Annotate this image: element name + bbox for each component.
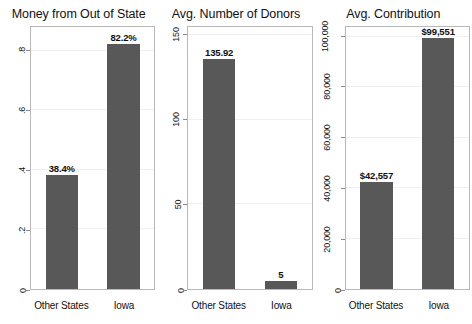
bar (422, 38, 454, 289)
axis-area: .8.6.4.2038.4%82.2% (0, 26, 155, 290)
axis-area: 150100500135.925 (157, 26, 312, 290)
bar-series: 135.925 (188, 27, 311, 289)
bar-value-label: 82.2% (89, 32, 157, 43)
plot-area: $42,557$99,551 (345, 26, 470, 290)
x-axis-category-label: Other States (30, 300, 93, 312)
bar-slot: 5 (265, 27, 297, 289)
bar-series: 38.4%82.2% (31, 27, 154, 289)
bar (360, 182, 392, 289)
bar-series: $42,557$99,551 (346, 27, 469, 289)
y-axis-tick-label: 50 (174, 200, 183, 210)
bar (203, 59, 235, 289)
bar-slot: $42,557 (360, 27, 392, 289)
x-axis-category-label: Iowa (407, 300, 470, 312)
panel-title: Money from Out of State (0, 7, 157, 22)
bar (265, 281, 297, 289)
y-axis-tick-label: 100,000 (321, 21, 330, 52)
x-axis-category-label: Iowa (93, 300, 156, 312)
chart-panel: Avg. Number of Donors150100500135.925Oth… (157, 0, 314, 324)
chart-panel: Avg. Contribution100,00080,00060,00040,0… (315, 0, 472, 324)
plot-area: 38.4%82.2% (30, 26, 155, 290)
bar (107, 44, 139, 289)
y-axis-tick-label: 60,000 (323, 125, 332, 151)
x-axis-category-label: Other States (187, 300, 250, 312)
x-axis: Other StatesIowa (345, 298, 470, 312)
bar-value-label: 135.92 (185, 47, 253, 58)
y-axis: 150100500 (157, 26, 187, 290)
panel-title: Avg. Contribution (315, 7, 472, 22)
bar-value-label: 5 (247, 269, 315, 280)
y-axis-tick-label: 80,000 (323, 74, 332, 100)
bar-value-label: 38.4% (28, 163, 96, 174)
x-axis-category-label: Other States (345, 300, 408, 312)
bar-value-label: $99,551 (404, 26, 472, 37)
y-axis-tick-label: 150 (172, 27, 181, 41)
bar-slot: $99,551 (422, 27, 454, 289)
y-axis-tick-label: 100 (172, 112, 181, 126)
y-axis-tick-label: 40,000 (323, 175, 332, 201)
multi-panel-bar-chart-figure: Money from Out of State.8.6.4.2038.4%82.… (0, 0, 472, 324)
bar (46, 175, 78, 289)
plot-area: 135.925 (187, 26, 312, 290)
y-axis: .8.6.4.20 (0, 26, 30, 290)
y-axis-tick-label: 20,000 (323, 226, 332, 252)
axis-area: 100,00080,00060,00040,00020,0000$42,557$… (315, 26, 470, 290)
bar-slot: 135.92 (203, 27, 235, 289)
bar-value-label: $42,557 (342, 170, 410, 181)
y-axis: 100,00080,00060,00040,00020,0000 (315, 26, 345, 290)
bar-slot: 82.2% (107, 27, 139, 289)
x-axis: Other StatesIowa (187, 298, 312, 312)
chart-panel: Money from Out of State.8.6.4.2038.4%82.… (0, 0, 157, 324)
x-axis: Other StatesIowa (30, 298, 155, 312)
x-axis-category-label: Iowa (250, 300, 313, 312)
bar-slot: 38.4% (46, 27, 78, 289)
panel-title: Avg. Number of Donors (157, 7, 314, 22)
